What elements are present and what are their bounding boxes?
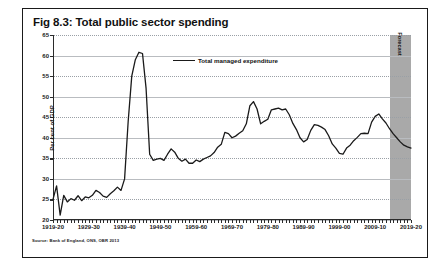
y-tick-label: 25 [42,196,49,202]
x-tick-mark [347,220,348,223]
x-tick-mark [82,220,83,223]
x-tick-mark [390,220,391,223]
x-tick-mark [264,220,265,223]
y-tick-label: 20 [42,217,49,223]
x-tick-mark [407,220,408,223]
y-tick-label: 60 [42,53,49,59]
x-tick-mark [110,220,111,223]
x-tick-mark [121,220,122,223]
x-tick-mark [214,220,215,223]
x-tick-mark [322,220,323,223]
x-tick-mark [236,220,237,223]
x-tick-mark [300,220,301,223]
x-tick-mark [60,220,61,223]
x-tick-mark [146,220,147,223]
x-tick-mark [286,220,287,223]
y-tick-label: 65 [42,32,49,38]
x-tick-label: 1989-90 [293,224,315,230]
x-tick-label: 2009-10 [364,224,386,230]
x-tick-mark [268,220,269,223]
x-tick-mark [89,220,90,223]
x-tick-mark [103,220,104,223]
x-tick-mark [225,220,226,223]
x-tick-mark [404,220,405,223]
x-tick-mark [143,220,144,223]
x-tick-mark [293,220,294,223]
x-tick-mark [193,220,194,223]
source-note: Source: Bank of England, ONS, OBR 2013 [32,238,119,243]
figure-title: Fig 8.3: Total public sector spending [33,16,228,28]
x-tick-label: 2019-20 [400,224,422,230]
x-tick-label: 1919-20 [42,224,64,230]
x-tick-mark [64,220,65,223]
legend-swatch-line [173,60,195,62]
x-tick-mark [218,220,219,223]
x-tick-mark [85,220,86,223]
x-tick-mark [125,220,126,223]
x-tick-mark [325,220,326,223]
x-tick-mark [185,220,186,223]
y-tick-label: 50 [42,94,49,100]
x-tick-mark [196,220,197,223]
x-tick-mark [135,220,136,223]
x-tick-mark [107,220,108,223]
x-tick-mark [239,220,240,223]
x-tick-mark [289,220,290,223]
x-tick-mark [221,220,222,223]
x-tick-mark [354,220,355,223]
x-tick-mark [132,220,133,223]
x-tick-mark [250,220,251,223]
x-tick-label: 1979-80 [257,224,279,230]
x-tick-mark [282,220,283,223]
x-tick-mark [211,220,212,223]
x-tick-label: 1949-50 [149,224,171,230]
x-tick-mark [311,220,312,223]
x-tick-mark [257,220,258,223]
x-tick-mark [411,220,412,223]
x-tick-mark [271,220,272,223]
x-tick-mark [243,220,244,223]
x-tick-label: 1939-40 [114,224,136,230]
x-tick-mark [92,220,93,223]
x-tick-mark [364,220,365,223]
x-tick-mark [350,220,351,223]
x-tick-label: 1969-70 [221,224,243,230]
x-tick-label: 1999-00 [328,224,350,230]
x-tick-mark [372,220,373,223]
x-tick-mark [253,220,254,223]
x-tick-mark [150,220,151,223]
x-tick-mark [153,220,154,223]
x-tick-mark [393,220,394,223]
x-tick-mark [336,220,337,223]
x-tick-mark [361,220,362,223]
x-tick-mark [246,220,247,223]
x-tick-mark [232,220,233,223]
x-tick-mark [261,220,262,223]
x-tick-mark [207,220,208,223]
x-tick-mark [318,220,319,223]
legend-label: Total managed expenditure [198,57,278,64]
x-tick-mark [296,220,297,223]
x-tick-mark [386,220,387,223]
x-tick-mark [275,220,276,223]
x-tick-mark [228,220,229,223]
x-tick-mark [160,220,161,223]
x-tick-mark [178,220,179,223]
x-tick-mark [175,220,176,223]
x-tick-mark [171,220,172,223]
x-tick-mark [357,220,358,223]
x-tick-mark [157,220,158,223]
x-tick-mark [307,220,308,223]
x-tick-mark [203,220,204,223]
x-tick-mark [164,220,165,223]
x-tick-mark [74,220,75,223]
x-tick-mark [314,220,315,223]
x-tick-mark [368,220,369,223]
x-tick-mark [189,220,190,223]
y-tick-label: 55 [42,73,49,79]
x-tick-mark [128,220,129,223]
y-tick-label: 30 [42,176,49,182]
x-tick-mark [400,220,401,223]
x-tick-mark [168,220,169,223]
plot-area: Forecast 20253035404550556065 1919-20192… [53,35,411,220]
